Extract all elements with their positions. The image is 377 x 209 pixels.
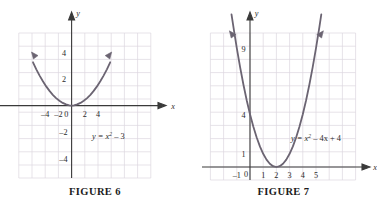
axes [0,12,166,178]
figure-7-panel: –1 0 1 2 3 4 5 9 4 1 y x y = x2 – 4x + 4… [190,0,377,209]
x-tick-4: 4 [301,171,305,180]
figure-6-graph: –4 –2 0 2 4 4 2 –2 –4 y x y = x2 – 3 [0,0,190,186]
y-tick-4: 4 [241,111,245,120]
figure-7-caption: FIGURE 7 [190,186,377,197]
x-tick--1: –1 [232,171,241,180]
equation-lhs: y = x [91,132,110,141]
x-tick-0: 0 [244,170,248,179]
axes [202,12,370,180]
equation-label: y = x2 – 3 [91,131,125,141]
figure-6-panel: –4 –2 0 2 4 4 2 –2 –4 y x y = x2 – 3 FIG… [0,0,190,209]
y-tick-9: 9 [241,45,245,54]
curve-right-arrowhead [105,52,112,59]
x-axis-name: x [372,163,377,172]
x-tick-2: 2 [274,171,278,180]
x-tick--2: –2 [53,110,62,119]
x-tick-0: 0 [64,110,68,119]
equation-rhs: – 3 [112,132,125,141]
figure-6-caption: FIGURE 6 [0,186,190,197]
x-tick-1: 1 [261,171,265,180]
y-tick-labels: 9 4 1 [241,45,245,160]
equation-rhs: – 4x + 4 [311,134,342,143]
y-axis-arrowhead [69,12,75,20]
y-tick--2: –2 [58,128,67,137]
grid-lines [210,33,355,180]
x-axis-arrowhead [158,103,166,109]
y-tick-4: 4 [62,49,66,58]
x-axis-arrowhead [362,164,370,170]
equation-label: y = x2 – 4x + 4 [290,133,342,143]
y-axis-name: y [75,9,80,18]
x-tick-2: 2 [83,110,87,119]
x-tick-labels: –4 –2 0 2 4 [40,110,100,119]
y-axis-name: y [254,9,259,18]
x-tick-4: 4 [96,110,100,119]
x-axis-name: x [170,102,175,111]
x-tick-3: 3 [288,171,292,180]
y-axis-arrowhead [247,12,253,20]
curve-left-arrowhead [32,52,39,59]
figure-7-graph: –1 0 1 2 3 4 5 9 4 1 y x y = x2 – 4x + 4 [190,0,377,186]
y-tick--4: –4 [58,155,67,164]
equation-lhs: y = x [290,134,309,143]
y-tick-1: 1 [241,150,245,159]
x-tick-5: 5 [314,171,318,180]
x-tick-labels: –1 0 1 2 3 4 5 [232,170,318,180]
x-tick--4: –4 [40,110,49,119]
y-tick-2: 2 [62,75,66,84]
